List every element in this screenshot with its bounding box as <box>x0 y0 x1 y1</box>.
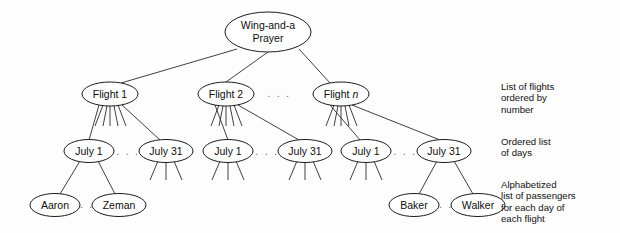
node-passenger-baker-label: Baker <box>400 199 428 211</box>
node-root-label-line2: Prayer <box>253 32 284 44</box>
node-passenger-zeman-label: Zeman <box>103 199 136 211</box>
fan-dna-3 <box>374 161 382 180</box>
fan-flight2-4 <box>230 106 234 126</box>
edge-flight1-july1 <box>89 105 99 140</box>
fan-dna-1 <box>350 161 358 180</box>
edge-flight2-july31 <box>238 105 299 140</box>
ellipsis-days-flightn: . . . <box>393 145 416 157</box>
ellipsis-passengers-left: . . <box>80 198 94 210</box>
ellipsis-days-flight1: . . . <box>116 145 139 157</box>
node-flight-2-label: Flight 2 <box>209 88 244 100</box>
fans-of-day-dna <box>350 161 382 180</box>
fans-of-day-d1b <box>150 161 182 180</box>
edge-d1a-zeman <box>98 161 115 194</box>
node-day-2a-label: July 1 <box>214 145 242 157</box>
node-flight-2[interactable]: Flight 2 <box>198 82 254 106</box>
node-passenger-zeman[interactable]: Zeman <box>92 194 146 217</box>
node-day-na-label: July 1 <box>352 145 380 157</box>
children-of-flight2 <box>211 105 299 140</box>
fans-of-day-d2b <box>289 161 321 180</box>
tree-diagram: Wing-and-a Prayer Flight 1 Flight 2 Flig… <box>0 0 620 233</box>
fan-d2a-3 <box>236 161 244 180</box>
ellipsis-passengers-right: . . <box>439 198 453 210</box>
node-flight-1-label: Flight 1 <box>93 88 128 100</box>
edges-root-to-flights <box>121 49 330 83</box>
edge-root-flightn <box>299 49 330 83</box>
children-of-flight1 <box>89 105 160 140</box>
children-of-day-dnb <box>419 161 473 194</box>
fan-flightn-5 <box>349 105 357 126</box>
node-day-2a[interactable]: July 1 <box>203 140 253 163</box>
fan-flight1-2 <box>103 106 107 126</box>
node-day-2b-label: July 31 <box>288 145 321 157</box>
node-day-nb[interactable]: July 31 <box>417 140 471 163</box>
fan-d2b-1 <box>289 161 297 180</box>
annotation-alphabetized-list-of-passengers: Alphabetized list of passengers for each… <box>501 179 576 225</box>
fan-d2b-3 <box>313 161 321 180</box>
fan-flightn-2 <box>334 106 338 126</box>
fan-d2a-1 <box>212 161 220 180</box>
children-of-flightn <box>326 105 440 140</box>
edge-root-flight1 <box>121 49 237 83</box>
node-root[interactable]: Wing-and-a Prayer <box>225 12 311 52</box>
node-flight-n[interactable]: Flight n <box>313 82 369 106</box>
edge-dnb-baker <box>419 161 437 194</box>
children-of-day-d1a <box>60 161 115 194</box>
node-day-na[interactable]: July 1 <box>341 140 391 163</box>
ellipsis-days-flight2: . . . <box>255 145 278 157</box>
annotation-list-of-flights: List of flights ordered by number <box>501 81 554 115</box>
node-day-nb-label: July 31 <box>427 145 460 157</box>
fan-d1b-3 <box>174 161 182 180</box>
edge-dnb-walker <box>454 161 473 194</box>
edge-flightn-july31 <box>352 105 440 140</box>
node-flight-n-label: Flight n <box>324 88 359 100</box>
fan-flightn-1 <box>326 105 334 126</box>
node-day-1a[interactable]: July 1 <box>64 140 114 163</box>
node-root-label-line1: Wing-and-a <box>241 19 295 31</box>
edge-root-flight2 <box>226 52 268 82</box>
node-passenger-aaron-label: Aaron <box>41 199 69 211</box>
node-day-1b-label: July 31 <box>149 145 182 157</box>
node-passenger-aaron[interactable]: Aaron <box>30 194 80 217</box>
edge-d1a-aaron <box>60 161 80 194</box>
node-day-1b[interactable]: July 31 <box>139 140 193 163</box>
fan-flight2-1 <box>211 105 219 126</box>
node-flight-1[interactable]: Flight 1 <box>82 82 138 106</box>
node-flight-n-label-prefix: Flight <box>324 88 353 100</box>
fans-of-day-d2a <box>212 161 244 180</box>
edge-flight1-july31 <box>122 105 160 140</box>
fan-flight2-2 <box>219 106 223 126</box>
node-passenger-walker[interactable]: Walker <box>451 194 505 217</box>
node-day-2b[interactable]: July 31 <box>278 140 332 163</box>
fan-flight1-4 <box>114 106 118 126</box>
node-day-1a-label: July 1 <box>75 145 103 157</box>
node-flight-n-label-suffix: n <box>352 88 358 100</box>
annotation-ordered-list-of-days: Ordered list of days <box>501 136 551 159</box>
ellipsis-flights: . . . <box>267 87 290 99</box>
node-passenger-walker-label: Walker <box>462 199 495 211</box>
fan-flight2-5 <box>234 105 242 126</box>
node-passenger-baker[interactable]: Baker <box>389 194 439 217</box>
fan-d1b-1 <box>150 161 158 180</box>
